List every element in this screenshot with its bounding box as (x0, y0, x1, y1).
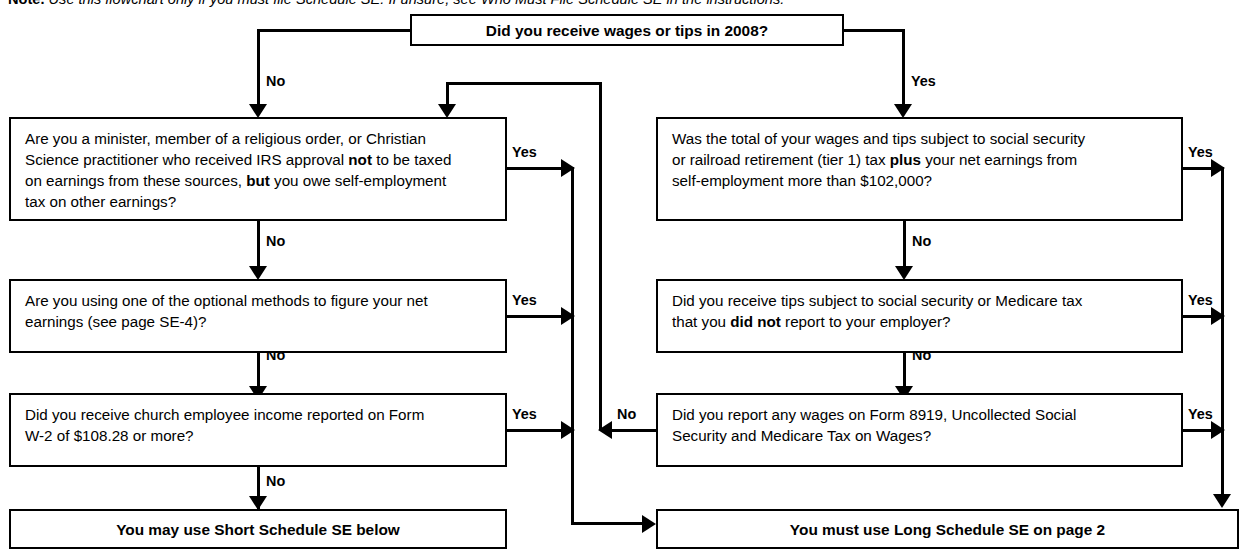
node-wage-limit-question[interactable]: Was the total of your wages and tips sub… (656, 117, 1183, 221)
form-8919-line-2: Security and Medicare Tax on Wages? (672, 425, 1167, 446)
edge-yes-bus-to-long-horizontal (571, 522, 646, 525)
minister-line-4: tax on other earnings? (25, 191, 491, 212)
edge-left-yes-2-horizontal (507, 315, 565, 318)
edge-label-start-yes: Yes (911, 73, 936, 89)
note-text: Use this flowchart only if you must file… (44, 0, 784, 7)
edge-left-yes-1-horizontal (507, 167, 565, 170)
edge-left-yes-2-arrowhead (561, 307, 575, 325)
church-income-line-1: Did you receive church employee income r… (25, 404, 491, 425)
minister-line-3: on earnings from these sources, but you … (25, 170, 491, 191)
edge-label-right-no-1: No (912, 233, 931, 249)
edge-form8919-no-arrowhead (598, 421, 612, 439)
edge-label-left-no-3: No (266, 473, 285, 489)
node-start-question-label: Did you receive wages or tips in 2008? (486, 20, 768, 41)
edge-left-yes-3-horizontal (507, 429, 565, 432)
edge-label-right-yes-1: Yes (1188, 144, 1213, 160)
edge-right-yes-bus-arrowhead (1213, 494, 1231, 508)
edge-right-no-1-vertical (903, 221, 906, 271)
node-church-income-question[interactable]: Did you receive church employee income r… (9, 393, 507, 467)
edge-left-yes-3-arrowhead (561, 421, 575, 439)
edge-left-no-3-arrowhead (249, 496, 267, 510)
node-start-question[interactable]: Did you receive wages or tips in 2008? (410, 14, 844, 46)
edge-right-yes-1-arrowhead (1211, 159, 1225, 177)
edge-label-left-no-1: No (266, 233, 285, 249)
edge-label-form8919-no: No (617, 406, 636, 422)
church-income-line-2: W-2 of $108.28 or more? (25, 425, 491, 446)
edge-right-yes-2-arrowhead (1211, 307, 1225, 325)
edge-return-drop-arrowhead (438, 104, 456, 118)
edge-left-no-1-arrowhead (249, 266, 267, 280)
flowchart-note: Note. Use this flowchart only if you mus… (8, 0, 784, 8)
note-prefix: Note. (8, 0, 44, 7)
edge-label-right-yes-2: Yes (1188, 292, 1213, 308)
edge-left-yes-1-arrowhead (561, 159, 575, 177)
outcome-short-label: You may use Short Schedule SE below (116, 519, 400, 540)
optional-methods-line-1: Are you using one of the optional method… (25, 290, 491, 311)
minister-line-1: Are you a minister, member of a religiou… (25, 128, 491, 149)
edge-start-no-vertical (257, 29, 260, 111)
node-unreported-tips-question[interactable]: Did you receive tips subject to social s… (656, 279, 1183, 353)
wage-limit-line-3: self-employment more than $102,000? (672, 170, 1167, 191)
optional-methods-line-2: earnings (see page SE-4)? (25, 311, 491, 332)
edge-label-left-yes-1: Yes (512, 144, 537, 160)
unreported-tips-line-2: that you did not report to your employer… (672, 311, 1167, 332)
node-optional-methods-question[interactable]: Are you using one of the optional method… (9, 279, 507, 353)
edge-label-left-yes-2: Yes (512, 292, 537, 308)
node-outcome-long-schedule[interactable]: You must use Long Schedule SE on page 2 (656, 509, 1239, 549)
edge-start-yes-horizontal (842, 29, 905, 32)
unreported-tips-line-1: Did you receive tips subject to social s… (672, 290, 1167, 311)
edge-label-right-yes-3: Yes (1188, 406, 1213, 422)
edge-right-yes-bus-vertical (1221, 167, 1224, 500)
edge-start-yes-vertical (902, 29, 905, 111)
edge-yes-bus-vertical (571, 167, 574, 525)
outcome-long-label: You must use Long Schedule SE on page 2 (790, 519, 1105, 540)
edge-return-vertical (599, 82, 602, 430)
edge-start-no-horizontal (257, 29, 412, 32)
edge-yes-bus-arrowhead (642, 515, 656, 533)
form-8919-line-1: Did you report any wages on Form 8919, U… (672, 404, 1167, 425)
node-form-8919-question[interactable]: Did you report any wages on Form 8919, U… (656, 393, 1183, 467)
edge-form8919-no-horizontal (612, 429, 658, 432)
wage-limit-line-2: or railroad retirement (tier 1) tax plus… (672, 149, 1167, 170)
edge-start-yes-arrowhead (894, 104, 912, 118)
minister-line-2: Science practitioner who received IRS ap… (25, 149, 491, 170)
edge-start-no-arrowhead (249, 104, 267, 118)
node-outcome-short-schedule[interactable]: You may use Short Schedule SE below (9, 509, 507, 549)
edge-label-left-yes-3: Yes (512, 406, 537, 422)
edge-left-no-1-vertical (257, 221, 260, 271)
wage-limit-line-1: Was the total of your wages and tips sub… (672, 128, 1167, 149)
edge-label-start-no: No (266, 73, 285, 89)
flowchart-canvas: Note. Use this flowchart only if you mus… (0, 0, 1250, 558)
edge-return-horizontal (446, 82, 602, 85)
node-minister-question[interactable]: Are you a minister, member of a religiou… (9, 117, 507, 221)
edge-right-no-1-arrowhead (895, 266, 913, 280)
edge-right-yes-3-arrowhead (1211, 421, 1225, 439)
